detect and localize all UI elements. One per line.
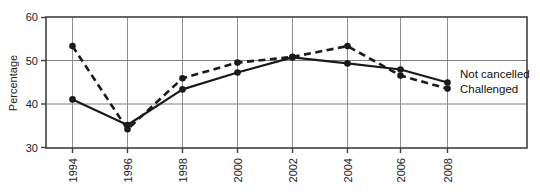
ytick-label-30: 30 <box>26 142 38 154</box>
xtick-label-2002: 2002 <box>287 158 299 182</box>
xtick-label-1998: 1998 <box>177 158 189 182</box>
data-point-not-cancelled-2004 <box>344 60 351 67</box>
data-point-challenged-2006 <box>397 72 404 79</box>
xtick-label-1996: 1996 <box>122 158 134 182</box>
data-point-not-cancelled-2008 <box>444 79 451 86</box>
line-chart: 60 50 40 30 Percentage 1994 1996 1998 20… <box>0 0 540 195</box>
data-point-challenged-2000 <box>234 59 241 66</box>
data-point-challenged-2008 <box>444 85 451 92</box>
ytick-label-60: 60 <box>26 11 38 23</box>
chart-background <box>0 0 540 195</box>
y-axis-title: Percentage <box>7 55 19 111</box>
chart-svg: 60 50 40 30 Percentage 1994 1996 1998 20… <box>0 0 540 195</box>
series-label-not-cancelled: Not cancelled <box>460 68 530 80</box>
data-point-not-cancelled-2006 <box>397 66 404 73</box>
data-point-not-cancelled-2000 <box>234 69 241 76</box>
data-point-challenged-2002 <box>289 54 296 61</box>
xtick-label-2008: 2008 <box>442 158 454 182</box>
data-point-not-cancelled-1994 <box>69 96 76 103</box>
data-point-challenged-1996 <box>124 126 131 133</box>
data-point-challenged-1994 <box>69 43 76 50</box>
series-label-challenged: Challenged <box>460 83 518 95</box>
data-point-not-cancelled-1998 <box>179 86 186 93</box>
xtick-label-1994: 1994 <box>67 158 79 182</box>
data-point-challenged-1998 <box>179 75 186 82</box>
xtick-label-2006: 2006 <box>395 158 407 182</box>
ytick-label-40: 40 <box>26 98 38 110</box>
xtick-label-2000: 2000 <box>232 158 244 182</box>
xtick-label-2004: 2004 <box>342 158 354 182</box>
data-point-challenged-2004 <box>344 43 351 50</box>
ytick-label-50: 50 <box>26 55 38 67</box>
